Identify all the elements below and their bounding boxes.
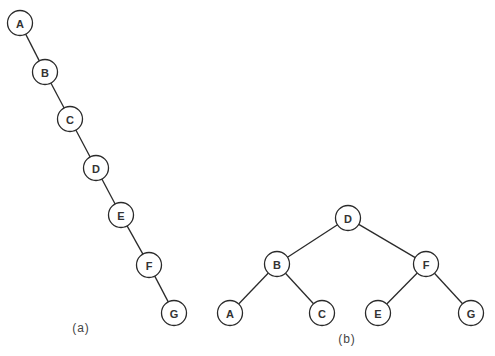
node-label: B (41, 67, 49, 79)
node-a: A (8, 11, 33, 36)
node-label: B (273, 259, 281, 271)
node-label: F (423, 259, 430, 271)
node-e: E (366, 301, 391, 326)
node-label: G (467, 308, 476, 320)
node-label: A (16, 18, 24, 30)
edge-b-c (51, 83, 64, 108)
tree-b-balanced: DBFACEG (b) (218, 206, 484, 347)
node-b: B (265, 252, 290, 277)
edge-b-a (239, 273, 269, 304)
edge-c-d (76, 130, 90, 157)
tree-a-skewed: ABCDEFG (a) (8, 11, 187, 336)
node-label: C (318, 308, 326, 320)
node-label: E (374, 308, 381, 320)
edge-d-b (287, 225, 337, 257)
node-b: B (33, 60, 58, 85)
node-a: A (218, 301, 243, 326)
node-label: C (66, 114, 74, 126)
node-d: D (336, 206, 361, 231)
tree-a-caption: (a) (72, 321, 90, 335)
edge-a-b (26, 34, 40, 61)
tree-b-nodes: DBFACEG (218, 206, 484, 326)
tree-a-nodes: ABCDEFG (8, 11, 187, 326)
node-d: D (84, 156, 109, 181)
node-c: C (58, 107, 83, 132)
tree-b-caption: (b) (338, 332, 356, 346)
node-e: E (109, 203, 134, 228)
node-g: G (459, 301, 484, 326)
edge-d-f (359, 224, 415, 257)
node-label: D (92, 163, 100, 175)
node-c: C (310, 301, 335, 326)
edge-f-e (387, 273, 418, 304)
node-label: E (117, 210, 124, 222)
edge-d-e (102, 179, 115, 204)
node-label: D (344, 213, 352, 225)
edge-f-g (434, 273, 462, 304)
node-label: A (226, 308, 234, 320)
node-f: F (414, 252, 439, 277)
edge-f-g (155, 276, 168, 302)
node-label: F (146, 260, 153, 272)
node-f: F (137, 253, 162, 278)
edge-b-c (285, 273, 313, 304)
edge-e-f (127, 226, 143, 254)
node-label: G (170, 308, 179, 320)
node-g: G (162, 301, 187, 326)
tree-diagram: ABCDEFG (a) DBFACEG (b) (0, 0, 495, 356)
